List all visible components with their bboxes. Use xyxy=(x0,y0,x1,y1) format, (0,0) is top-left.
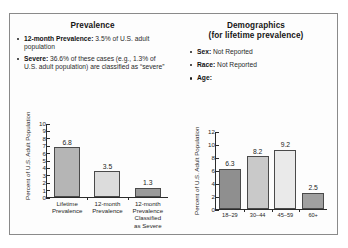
x-tick-label-line: 18–29 xyxy=(216,212,244,219)
y-tick-1: 1 xyxy=(34,188,46,194)
bar-slot: 9.2 xyxy=(272,132,300,209)
y-tick-mark xyxy=(46,198,50,199)
bullet-label: Severe: xyxy=(24,55,48,62)
y-tick-mark xyxy=(215,158,219,159)
y-axis-label: Percent of U.S. Adult Population xyxy=(193,206,200,215)
y-tick-10: 10 xyxy=(203,142,215,148)
y-tick-mark xyxy=(215,171,219,172)
x-tick-label-line: Prevalence xyxy=(128,207,168,214)
x-tick-label: 18–29 xyxy=(216,212,244,219)
bullet-dot-icon xyxy=(190,77,192,79)
demographics-title-line2: (for lifetime prevalence) xyxy=(175,31,337,41)
bullet-dot-icon xyxy=(190,51,192,53)
x-tick-label: 30–44 xyxy=(244,212,272,219)
bar[interactable]: 2.5 xyxy=(302,193,324,209)
bullet-race: Race: Not Reported xyxy=(189,61,331,70)
plot-area: 6.38.29.22.5 024681012 xyxy=(215,132,327,210)
y-tick-2: 2 xyxy=(203,194,215,200)
x-tick-label-line: Lifetime xyxy=(47,200,87,207)
y-tick-mark xyxy=(46,146,50,147)
x-tick-mark xyxy=(128,197,129,200)
prevalence-bullet-list: 12-month Prevalence: 3.5% of U.S. adult … xyxy=(10,35,175,72)
y-tick-2: 2 xyxy=(34,180,46,186)
y-tick-12: 12 xyxy=(203,129,215,135)
bar[interactable]: 9.2 xyxy=(274,150,296,209)
y-tick-mark xyxy=(215,210,219,211)
bar-slot: 2.5 xyxy=(299,132,327,209)
bullet-severe: Severe: 36.6% of these cases (e.g., 1.3%… xyxy=(16,55,169,72)
x-tick-label: 12-monthPrevalenceClassifiedas Severe xyxy=(128,200,168,229)
y-tick-0: 0 xyxy=(203,207,215,213)
x-tick-label: 45–59 xyxy=(272,212,300,219)
x-tick-label: 60+ xyxy=(299,212,327,219)
y-tick-mark xyxy=(215,184,219,185)
y-tick-9: 9 xyxy=(34,128,46,134)
x-tick-mark xyxy=(87,197,88,200)
bullet-dot-icon xyxy=(17,38,19,40)
y-tick-8: 8 xyxy=(203,155,215,161)
bullet-label: Age: xyxy=(197,74,212,81)
bar[interactable]: 8.2 xyxy=(247,156,269,209)
y-tick-5: 5 xyxy=(34,158,46,164)
panel-demographics: Demographics (for lifetime prevalence) S… xyxy=(175,14,337,234)
y-axis-label: Percent of U.S. Adult Population xyxy=(24,191,31,200)
bar[interactable]: 3.5 xyxy=(94,171,120,197)
prevalence-title: Prevalence xyxy=(10,21,175,31)
bar-value-label: 9.2 xyxy=(281,141,290,148)
y-tick-mark xyxy=(46,161,50,162)
x-tick-label-line: Prevalence xyxy=(87,207,127,214)
bar[interactable]: 1.3 xyxy=(135,188,161,197)
bullet-12-month-prevalence: 12-month Prevalence: 3.5% of U.S. adult … xyxy=(16,35,169,52)
x-tick-label-line: 12-month xyxy=(128,200,168,207)
prevalence-bar-chart: Percent of U.S. Adult Population 6.83.51… xyxy=(24,122,170,228)
demographics-title: Demographics (for lifetime prevalence) xyxy=(175,21,337,40)
y-tick-4: 4 xyxy=(34,165,46,171)
y-tick-6: 6 xyxy=(203,168,215,174)
x-tick-label: LifetimePrevalence xyxy=(47,200,87,229)
bullet-dot-icon xyxy=(17,58,19,60)
bullet-label: Race: xyxy=(197,61,215,68)
bar-slot: 6.3 xyxy=(216,132,244,209)
y-tick-mark xyxy=(46,190,50,191)
x-tick-label-line: Prevalence xyxy=(47,207,87,214)
bar-slot: 6.8 xyxy=(47,124,87,197)
y-tick-mark xyxy=(46,153,50,154)
x-tick-label-line: as Severe xyxy=(128,222,168,229)
x-tick-labels: LifetimePrevalence12-monthPrevalence12-m… xyxy=(47,200,168,229)
x-tick-label-line: 12-month xyxy=(87,200,127,207)
bullet-text: Not Reported xyxy=(211,48,253,55)
x-tick-mark xyxy=(299,209,300,212)
y-tick-7: 7 xyxy=(34,143,46,149)
y-tick-8: 8 xyxy=(34,136,46,142)
x-tick-label-line: Classified xyxy=(128,214,168,221)
demographics-bullet-list: Sex: Not Reported Race: Not Reported Age… xyxy=(175,48,337,83)
bar-value-label: 6.3 xyxy=(225,160,234,167)
bar-value-label: 1.3 xyxy=(143,179,152,186)
bar-group: 6.38.29.22.5 xyxy=(216,132,327,209)
bar-value-label: 8.2 xyxy=(253,148,262,155)
x-tick-labels: 18–2930–4445–5960+ xyxy=(216,212,327,219)
figure-frame: Prevalence 12-month Prevalence: 3.5% of … xyxy=(9,13,338,235)
y-tick-3: 3 xyxy=(34,173,46,179)
y-tick-4: 4 xyxy=(203,181,215,187)
demographics-age-bar-chart: Percent of U.S. Adult Population 6.38.29… xyxy=(193,130,329,228)
y-tick-mark xyxy=(46,124,50,125)
y-tick-mark xyxy=(215,145,219,146)
y-tick-0: 0 xyxy=(34,195,46,201)
bar-slot: 3.5 xyxy=(87,124,127,197)
y-tick-mark xyxy=(215,197,219,198)
y-tick-mark xyxy=(215,132,219,133)
bar-value-label: 2.5 xyxy=(308,184,317,191)
bar-slot: 1.3 xyxy=(128,124,168,197)
bar[interactable]: 6.8 xyxy=(54,147,80,197)
demographics-title-line1: Demographics xyxy=(175,21,337,31)
bar-value-label: 6.8 xyxy=(62,139,71,146)
y-tick-mark xyxy=(46,138,50,139)
x-tick-label: 12-monthPrevalence xyxy=(87,200,127,229)
x-tick-label-line: 60+ xyxy=(299,212,327,219)
bullet-dot-icon xyxy=(190,64,192,66)
x-tick-mark xyxy=(272,209,273,212)
y-tick-mark xyxy=(46,131,50,132)
plot-area: 6.83.51.3 012345678910 xyxy=(46,124,168,198)
bar[interactable]: 6.3 xyxy=(219,169,241,209)
